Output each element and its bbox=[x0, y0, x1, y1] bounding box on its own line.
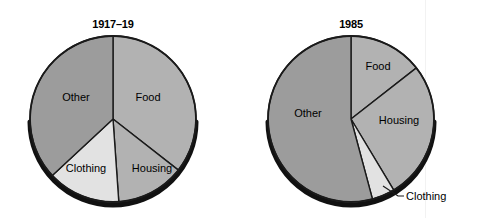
slice-label-1917-housing: Housing bbox=[132, 162, 172, 174]
pie-1917-19-group bbox=[30, 36, 196, 206]
slice-label-1985-food: Food bbox=[365, 60, 390, 72]
pie-1985-title: 1985 bbox=[339, 18, 363, 30]
slice-label-1917-food: Food bbox=[135, 91, 160, 103]
slice-label-1985-clothing: Clothing bbox=[406, 190, 446, 202]
pie-charts-canvas bbox=[0, 0, 477, 218]
pie-1917-19-title: 1917–19 bbox=[92, 18, 133, 30]
slice-label-1985-housing: Housing bbox=[379, 114, 419, 126]
figure-root: 1917–19 1985 Other Food Clothing Housing… bbox=[0, 0, 477, 218]
slice-label-1985-other: Other bbox=[294, 107, 322, 119]
slice-label-1917-clothing: Clothing bbox=[66, 162, 106, 174]
slice-label-1917-other: Other bbox=[62, 91, 90, 103]
